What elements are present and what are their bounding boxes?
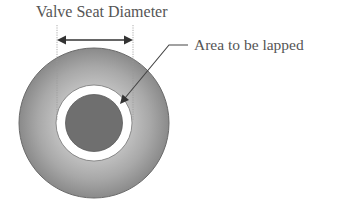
diameter-dimension-arrow bbox=[57, 36, 133, 45]
valve-inner-core bbox=[66, 95, 123, 152]
valve-seat-diagram: Valve Seat Diameter Area to be lapped bbox=[0, 0, 338, 213]
area-to-be-lapped-label: Area to be lapped bbox=[194, 36, 304, 53]
valve-seat-diameter-label: Valve Seat Diameter bbox=[36, 3, 168, 20]
